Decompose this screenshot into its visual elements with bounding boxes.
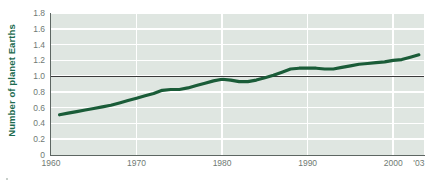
x-tick-label: 1970 <box>127 158 146 168</box>
y-tick-label: 1.8 <box>33 8 45 18</box>
y-tick-label: 0.8 <box>33 87 45 97</box>
y-axis-spine <box>50 13 51 156</box>
x-axis-spine <box>50 155 425 156</box>
x-tick-label: '03 <box>413 158 424 168</box>
y-axis-tick-labels: 00.20.40.60.81.01.21.41.61.8 <box>22 13 48 155</box>
plot-area <box>51 13 424 155</box>
x-tick-label: 1980 <box>213 158 232 168</box>
y-tick-label: 1.4 <box>33 40 45 50</box>
ecological-footprint-line-chart: Number of planet Earths 00.20.40.60.81.0… <box>0 0 438 186</box>
x-tick-label: 1990 <box>298 158 317 168</box>
y-tick-label: 1.6 <box>33 24 45 34</box>
y-tick-label: 0.4 <box>33 118 45 128</box>
y-axis-title-label: Number of planet Earths <box>6 24 17 137</box>
y-tick-label: 1.0 <box>33 71 45 81</box>
x-tick-label: 2000 <box>384 158 403 168</box>
page-speck <box>6 178 8 180</box>
x-tick-label: 1960 <box>42 158 61 168</box>
y-tick-label: 0.2 <box>33 134 45 144</box>
y-axis-title: Number of planet Earths <box>0 0 22 160</box>
y-tick-label: 0.6 <box>33 103 45 113</box>
y-tick-label: 1.2 <box>33 55 45 65</box>
x-axis-tick-labels: 19601970198019902000'03 <box>51 158 424 178</box>
data-series-line <box>51 13 424 155</box>
